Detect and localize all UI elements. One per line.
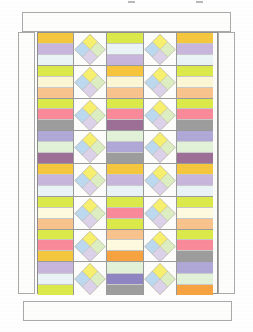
four-patch-diamond	[74, 230, 106, 262]
strip-block-r1-c5	[177, 33, 213, 66]
strip-bar-2	[177, 109, 213, 120]
strip-bar-1	[107, 66, 143, 77]
strip-bar-3	[177, 120, 213, 130]
strip-bar-2	[38, 44, 73, 55]
strip-block-r3-c5	[177, 99, 213, 132]
four-patch-diamond	[74, 33, 106, 65]
four-patch-diamond	[74, 197, 106, 229]
strip-bar-2	[107, 109, 143, 120]
strip-bar-1	[38, 262, 73, 273]
strip-bar-2	[177, 44, 213, 55]
quilt-block-grid	[37, 32, 218, 294]
strip-bar-2	[107, 274, 143, 285]
four-patch-diamond	[74, 66, 106, 98]
diamond-block-r5-c2	[74, 164, 107, 197]
strip-bar-1	[177, 33, 213, 44]
strip-bar-2	[107, 44, 143, 55]
strip-bar-3	[177, 251, 213, 261]
strip-bar-3	[107, 219, 143, 229]
strip-bar-3	[177, 55, 213, 65]
strip-bar-2	[107, 77, 143, 88]
strip-bar-2	[177, 77, 213, 88]
four-patch-diamond	[144, 66, 176, 98]
strip-bar-2	[38, 77, 73, 88]
strip-bar-3	[38, 120, 73, 130]
diamond-block-r5-c4	[144, 164, 177, 197]
strip-bar-2	[177, 208, 213, 219]
strip-bar-3	[38, 55, 73, 65]
strip-block-r8-c1	[38, 262, 74, 295]
strip-bar-1	[38, 197, 73, 208]
strip-bar-2	[107, 142, 143, 153]
four-patch-diamond	[144, 262, 176, 295]
strip-bar-3	[38, 186, 73, 196]
strip-block-r8-c5	[177, 262, 213, 295]
strip-bar-2	[107, 208, 143, 219]
strip-bar-1	[107, 197, 143, 208]
strip-bar-3	[38, 219, 73, 229]
diamond-block-r8-c2	[74, 262, 107, 295]
strip-bar-1	[107, 33, 143, 44]
strip-block-r5-c5	[177, 164, 213, 197]
four-patch-diamond	[144, 99, 176, 131]
strip-bar-3	[177, 88, 213, 98]
strip-bar-3	[38, 251, 73, 261]
strip-bar-2	[38, 240, 73, 251]
strip-bar-3	[38, 88, 73, 98]
strip-block-r3-c3	[107, 99, 144, 132]
strip-block-r5-c3	[107, 164, 144, 197]
diamond-block-r1-c4	[144, 33, 177, 66]
strip-bar-1	[107, 99, 143, 110]
strip-block-r1-c1	[38, 33, 74, 66]
strip-block-r3-c1	[38, 99, 74, 132]
diamond-block-r6-c2	[74, 197, 107, 230]
diamond-block-r7-c2	[74, 230, 107, 263]
diamond-block-r8-c4	[144, 262, 177, 295]
diamond-block-r2-c4	[144, 66, 177, 99]
strip-bar-1	[38, 99, 73, 110]
strip-block-r6-c1	[38, 197, 74, 230]
strip-bar-2	[177, 274, 213, 285]
strip-bar-3	[107, 153, 143, 163]
diamond-block-r2-c2	[74, 66, 107, 99]
page-tick-2	[196, 1, 203, 3]
strip-block-r6-c3	[107, 197, 144, 230]
strip-bar-3	[107, 55, 143, 65]
strip-bar-3	[107, 285, 143, 295]
strip-bar-1	[107, 262, 143, 273]
strip-block-r7-c1	[38, 230, 74, 263]
strip-bar-2	[107, 240, 143, 251]
four-patch-diamond	[74, 262, 106, 295]
strip-bar-1	[107, 131, 143, 142]
strip-bar-3	[107, 186, 143, 196]
four-patch-diamond	[144, 197, 176, 229]
strip-bar-3	[177, 153, 213, 163]
strip-bar-3	[177, 186, 213, 196]
strip-bar-2	[177, 240, 213, 251]
page-tick-marks	[0, 0, 253, 8]
strip-bar-2	[177, 142, 213, 153]
strip-block-r1-c3	[107, 33, 144, 66]
strip-bar-1	[177, 99, 213, 110]
strip-bar-2	[177, 175, 213, 186]
four-patch-diamond	[74, 164, 106, 196]
border-strip-top	[22, 12, 231, 32]
border-strip-right	[218, 32, 235, 294]
strip-bar-1	[38, 131, 73, 142]
strip-bar-1	[38, 33, 73, 44]
strip-bar-1	[107, 164, 143, 175]
strip-bar-1	[177, 197, 213, 208]
diamond-block-r1-c2	[74, 33, 107, 66]
strip-bar-3	[107, 120, 143, 130]
strip-block-r5-c1	[38, 164, 74, 197]
strip-bar-1	[177, 164, 213, 175]
strip-bar-3	[38, 153, 73, 163]
four-patch-diamond	[144, 131, 176, 163]
strip-block-r2-c1	[38, 66, 74, 99]
strip-bar-3	[177, 219, 213, 229]
diamond-block-r3-c2	[74, 99, 107, 132]
strip-block-r7-c3	[107, 230, 144, 263]
four-patch-diamond	[144, 230, 176, 262]
four-patch-diamond	[74, 131, 106, 163]
diamond-block-r4-c4	[144, 131, 177, 164]
